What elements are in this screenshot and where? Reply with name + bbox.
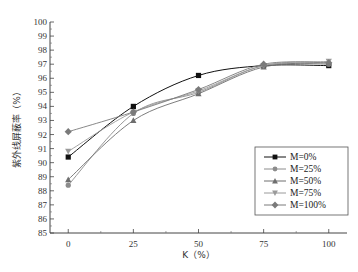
y-tick-label: 87 xyxy=(38,200,48,210)
y-tick-label: 100 xyxy=(34,17,48,27)
square-marker xyxy=(66,154,71,159)
circle-marker xyxy=(273,167,278,172)
y-tick-label: 89 xyxy=(38,172,48,182)
series-line xyxy=(68,62,329,132)
circle-marker xyxy=(66,183,71,188)
square-marker xyxy=(273,155,278,160)
y-tick-label: 97 xyxy=(38,59,48,69)
y-tick-label: 94 xyxy=(38,101,48,111)
x-tick-label: 25 xyxy=(129,239,139,249)
y-axis-title: 紫外线屏蔽率（%） xyxy=(11,87,22,168)
square-marker xyxy=(131,104,136,109)
series-line xyxy=(68,65,329,157)
legend: M=0%M=25%M=50%M=75%M=100% xyxy=(255,147,348,215)
x-tick-label: 100 xyxy=(322,239,336,249)
x-tick-label: 75 xyxy=(259,239,269,249)
y-tick-label: 98 xyxy=(38,45,48,55)
legend-label: M=25% xyxy=(290,164,321,174)
y-tick-label: 93 xyxy=(38,115,48,125)
y-tick-label: 88 xyxy=(38,186,48,196)
y-tick-label: 91 xyxy=(38,144,47,154)
line-chart: 8586878889909192939495969798991000255075… xyxy=(0,0,358,272)
series-m0 xyxy=(66,63,332,160)
x-tick-label: 0 xyxy=(66,239,71,249)
y-tick-label: 99 xyxy=(38,31,48,41)
y-tick-label: 85 xyxy=(38,228,48,238)
y-tick-label: 92 xyxy=(38,130,47,140)
legend-label: M=0% xyxy=(290,152,317,162)
legend-label: M=50% xyxy=(290,176,321,186)
y-tick-label: 96 xyxy=(38,73,48,83)
x-axis-title: K（%） xyxy=(182,250,214,260)
triangle-up-marker xyxy=(130,117,136,123)
y-tick-label: 90 xyxy=(38,158,48,168)
legend-label: M=100% xyxy=(290,200,326,210)
square-marker xyxy=(196,73,201,78)
series-m100 xyxy=(65,59,333,135)
diamond-marker xyxy=(65,128,72,135)
legend-label: M=75% xyxy=(290,188,321,198)
y-tick-label: 86 xyxy=(38,214,48,224)
x-tick-label: 50 xyxy=(194,239,204,249)
triangle-down-marker xyxy=(65,149,71,155)
y-tick-label: 95 xyxy=(38,87,48,97)
